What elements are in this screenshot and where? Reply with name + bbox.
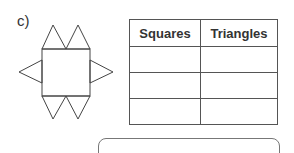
table-header-row: Squares Triangles — [130, 20, 278, 47]
table-row — [130, 47, 278, 73]
count-table: Squares Triangles — [129, 19, 278, 125]
answer-box[interactable] — [98, 138, 280, 153]
cell-squares[interactable] — [130, 47, 201, 73]
table-row — [130, 99, 278, 125]
cell-squares[interactable] — [130, 99, 201, 125]
table-row — [130, 73, 278, 99]
cell-triangles[interactable] — [201, 73, 278, 99]
triangle-top-left — [42, 25, 66, 49]
cell-squares[interactable] — [130, 73, 201, 99]
triangle-left — [19, 60, 42, 83]
shape-net-icon — [0, 0, 130, 153]
cell-triangles[interactable] — [201, 47, 278, 73]
triangle-bottom-left — [42, 96, 66, 119]
header-squares: Squares — [130, 20, 201, 47]
triangle-right — [90, 60, 113, 83]
square — [42, 49, 90, 96]
triangle-top-right — [66, 25, 90, 49]
header-triangles: Triangles — [201, 20, 278, 47]
cell-triangles[interactable] — [201, 99, 278, 125]
triangle-bottom-right — [66, 96, 90, 119]
